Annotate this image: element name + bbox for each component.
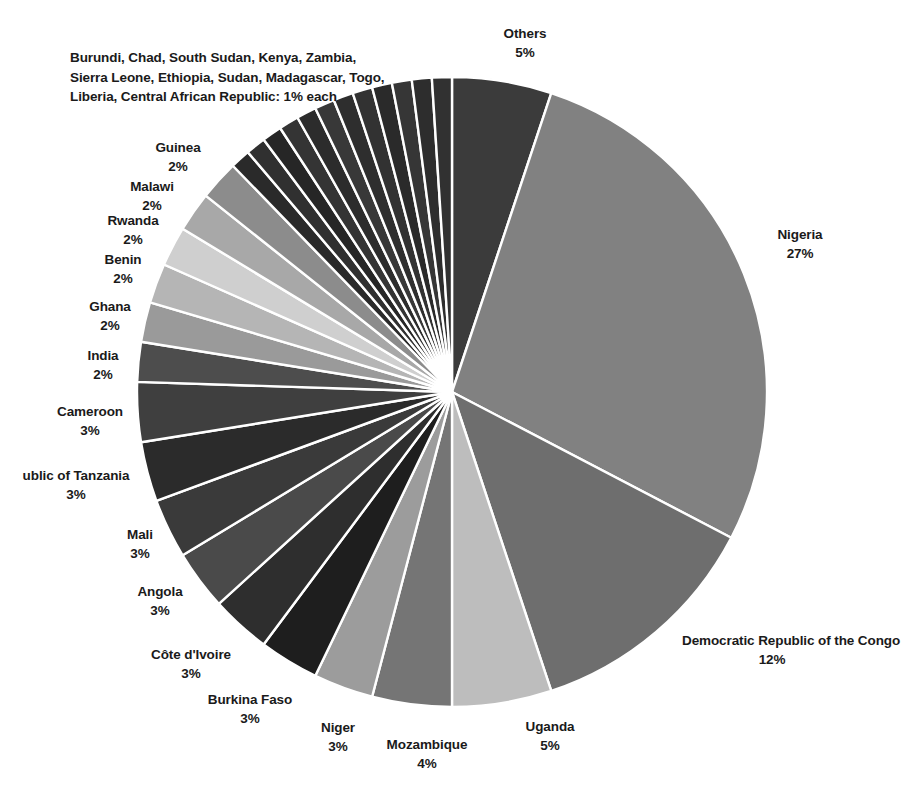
pie-slice-label-name: Côte d'Ivoire (151, 647, 231, 662)
pie-slice-label-name: Benin (104, 252, 141, 267)
pie-slice-label-percent: 3% (0, 485, 166, 504)
pie-slice-label-name: Guinea (155, 140, 200, 155)
pie-slice-label: Democratic Republic of the Congo12% (682, 631, 862, 669)
pie-slice-label: Angola3% (70, 582, 250, 620)
pie-chart-page: Others5%Nigeria27%Democratic Republic of… (0, 0, 916, 786)
pie-slice-label-name: India (87, 348, 118, 363)
pie-slice-label-name: Cameroon (57, 404, 123, 419)
pie-slice-label-percent: 2% (13, 365, 193, 384)
pie-slice-label: ublic of Tanzania3% (0, 466, 166, 504)
pie-slice-label-name: ublic of Tanzania (23, 468, 130, 483)
pie-slice-label: Benin2% (33, 250, 213, 288)
pie-slice-label: Côte d'Ivoire3% (101, 645, 281, 683)
pie-slice-label: Ghana2% (20, 297, 200, 335)
pie-slice-label-name: Democratic Republic of the Congo (682, 633, 900, 648)
pie-slice-label-name: Angola (137, 584, 182, 599)
one-percent-note-line: Liberia, Central African Republic: 1% ea… (70, 87, 385, 107)
pie-slice-label-name: Uganda (526, 719, 575, 734)
pie-slice-label-percent: 12% (682, 650, 862, 669)
pie-slice-label-percent: 3% (50, 544, 230, 563)
pie-slice-label-name: Nigeria (777, 227, 822, 242)
pie-slice-label-percent: 2% (33, 269, 213, 288)
pie-slice-label-percent: 4% (337, 754, 517, 773)
pie-slice-label: Burkina Faso3% (160, 690, 340, 728)
pie-slice-label-name: Others (504, 26, 547, 41)
one-percent-each-note: Burundi, Chad, South Sudan, Kenya, Zambi… (70, 48, 385, 107)
pie-slice-label-percent: 27% (710, 244, 890, 263)
pie-slice-label-percent: 3% (70, 601, 250, 620)
one-percent-note-line: Sierra Leone, Ethiopia, Sudan, Madagasca… (70, 68, 385, 88)
pie-slice-label: Guinea2% (88, 138, 268, 176)
pie-slice-label-percent: 2% (62, 196, 242, 215)
pie-slice-label: India2% (13, 346, 193, 384)
pie-slice-label: Cameroon3% (0, 402, 180, 440)
pie-slice-label-name: Malawi (130, 179, 174, 194)
pie-slice-label: Rwanda2% (43, 211, 223, 249)
pie-slice-label: Mali3% (50, 525, 230, 563)
pie-slice-label-name: Burkina Faso (208, 692, 292, 707)
pie-slice-label-percent: 3% (160, 709, 340, 728)
one-percent-note-line: Burundi, Chad, South Sudan, Kenya, Zambi… (70, 48, 385, 68)
pie-slice-label-name: Mali (127, 527, 153, 542)
pie-slice-label-percent: 3% (0, 421, 180, 440)
pie-slice-label-percent: 3% (248, 737, 428, 756)
pie-slice-label-percent: 5% (435, 43, 615, 62)
pie-slice-label-name: Ghana (89, 299, 131, 314)
pie-slice-label-percent: 2% (20, 316, 200, 335)
pie-slice-label-percent: 2% (43, 230, 223, 249)
pie-slice-label: Nigeria27% (710, 225, 890, 263)
pie-slice-label-percent: 3% (101, 664, 281, 683)
pie-slice-label: Malawi2% (62, 177, 242, 215)
pie-slice-label: Others5% (435, 24, 615, 62)
pie-slice-label-percent: 2% (88, 157, 268, 176)
